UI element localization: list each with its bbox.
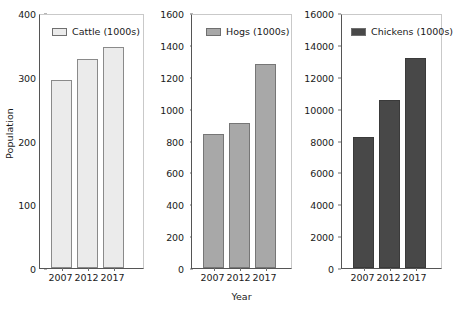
y-tick-label: 6000 — [310, 168, 334, 179]
y-axis-ticks-cattle: 0100200300400 — [8, 0, 40, 312]
y-axis-ticks-hogs: 02004006008001000120014001600 — [150, 0, 188, 312]
bars-chickens — [342, 15, 441, 268]
y-tick-label: 400 — [18, 9, 36, 20]
bar-chickens-2012 — [379, 100, 400, 268]
y-tick-label: 16000 — [304, 9, 334, 20]
legend-label-cattle: Cattle (1000s) — [72, 26, 140, 37]
x-axis-labels-cattle: 200720122017 — [39, 272, 144, 286]
x-tick-label: 2007 — [49, 272, 73, 283]
x-axis-labels-chickens: 200720122017 — [341, 272, 442, 286]
x-tick-mark — [390, 268, 391, 271]
legend-cattle: Cattle (1000s) — [52, 26, 140, 37]
plot-area-cattle — [39, 14, 144, 269]
y-tick-label: 0 — [328, 264, 334, 275]
x-tick-label: 2017 — [101, 272, 125, 283]
y-tick-label: 200 — [166, 232, 184, 243]
y-tick-label: 300 — [18, 72, 36, 83]
bars-cattle — [40, 15, 143, 268]
bar-chickens-2017 — [405, 58, 426, 268]
y-tick-label: 100 — [18, 200, 36, 211]
x-tick-label: 2012 — [75, 272, 99, 283]
legend-swatch-icon — [52, 28, 67, 36]
plot-area-chickens — [341, 14, 442, 269]
y-tick-label: 1200 — [160, 72, 184, 83]
bars-hogs — [192, 15, 291, 268]
panel-chickens: 0200040006000800010000120001400016000 20… — [296, 0, 446, 312]
x-tick-label: 2007 — [351, 272, 375, 283]
x-tick-mark — [416, 268, 417, 271]
y-tick-label: 1400 — [160, 40, 184, 51]
x-tick-mark — [62, 268, 63, 271]
bar-chickens-2007 — [353, 137, 374, 268]
x-tick-mark — [266, 268, 267, 271]
x-tick-label: 2017 — [253, 272, 277, 283]
x-axis-title: Year — [191, 291, 292, 302]
legend-swatch-icon — [206, 28, 221, 36]
legend-label-hogs: Hogs (1000s) — [226, 26, 290, 37]
x-tick-label: 2007 — [201, 272, 225, 283]
x-tick-label: 2012 — [377, 272, 401, 283]
y-tick-label: 400 — [166, 200, 184, 211]
x-tick-mark — [240, 268, 241, 271]
x-tick-mark — [364, 268, 365, 271]
bar-cattle-2012 — [77, 59, 98, 268]
panel-cattle: Population 0100200300400 200720122017 Ca… — [0, 0, 148, 312]
legend-label-chickens: Chickens (1000s) — [371, 26, 453, 37]
y-tick-label: 8000 — [310, 136, 334, 147]
y-axis-ticks-chickens: 0200040006000800010000120001400016000 — [296, 0, 338, 312]
legend-chickens: Chickens (1000s) — [351, 26, 453, 37]
panel-hogs: 02004006008001000120014001600 2007201220… — [148, 0, 296, 312]
y-tick-label: 2000 — [310, 232, 334, 243]
x-axis-labels-hogs: 200720122017 — [191, 272, 292, 286]
y-tick-label: 10000 — [304, 104, 334, 115]
y-tick-label: 0 — [30, 264, 36, 275]
bar-hogs-2012 — [229, 123, 250, 268]
x-tick-label: 2012 — [227, 272, 251, 283]
x-tick-mark — [88, 268, 89, 271]
x-tick-label: 2017 — [403, 272, 427, 283]
x-tick-mark — [114, 268, 115, 271]
bar-hogs-2017 — [255, 64, 276, 268]
x-tick-mark — [214, 268, 215, 271]
plot-area-hogs — [191, 14, 292, 269]
legend-hogs: Hogs (1000s) — [206, 26, 290, 37]
y-tick-label: 600 — [166, 168, 184, 179]
legend-swatch-icon — [351, 28, 366, 36]
y-tick-label: 14000 — [304, 40, 334, 51]
y-tick-label: 4000 — [310, 200, 334, 211]
y-tick-label: 200 — [18, 136, 36, 147]
y-tick-label: 1000 — [160, 104, 184, 115]
bar-cattle-2007 — [51, 80, 72, 268]
bar-hogs-2007 — [203, 134, 224, 268]
bar-cattle-2017 — [103, 47, 124, 268]
y-tick-label: 12000 — [304, 72, 334, 83]
y-tick-label: 1600 — [160, 9, 184, 20]
y-tick-label: 0 — [178, 264, 184, 275]
y-tick-label: 800 — [166, 136, 184, 147]
